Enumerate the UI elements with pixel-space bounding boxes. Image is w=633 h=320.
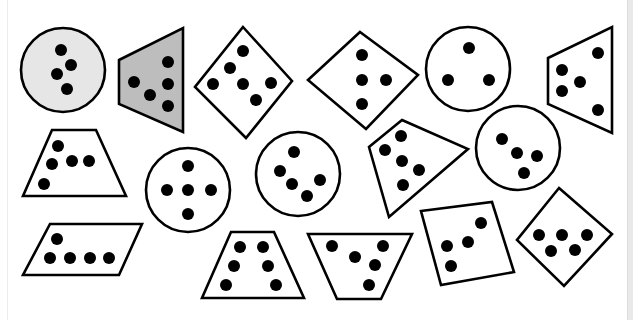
shape-parallelogram-12: [23, 224, 142, 275]
shapes-canvas: [0, 0, 633, 320]
shape-square-15: [421, 202, 514, 285]
shape-trapezoid-13: [202, 232, 304, 298]
shape-circle-1: [21, 28, 105, 112]
shape-quadrilateral-10: [369, 120, 468, 217]
shape-diamond-4: [308, 32, 418, 129]
shape-circle-11: [476, 106, 560, 190]
shape-diamond-16: [517, 188, 612, 286]
shape-trapezoid-6: [548, 27, 612, 133]
shape-circle-8: [146, 148, 230, 232]
shape-circle-9: [256, 132, 340, 216]
shape-diamond-3: [195, 27, 292, 138]
shape-inverted-trapezoid-14: [308, 234, 412, 299]
shape-trapezoid-7: [23, 130, 126, 196]
shape-trapezoid-gray-2: [119, 28, 183, 132]
shape-circle-5: [426, 27, 510, 111]
